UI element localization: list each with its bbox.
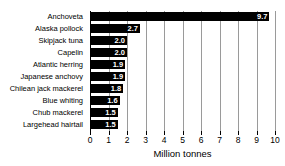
bar-row: 1.5 <box>90 119 275 131</box>
bar-value-label: 1.9 <box>90 60 125 69</box>
category-label: Japanese anchovy <box>0 71 86 83</box>
category-label: Skipjack tuna <box>0 35 86 47</box>
gridline-10 <box>275 11 276 131</box>
x-axis-tick-labels: 012345678910 <box>90 135 275 147</box>
bar-row: 2.0 <box>90 35 275 47</box>
bar-value-label: 1.5 <box>90 120 118 129</box>
x-tick-label-9: 9 <box>249 135 265 146</box>
bar-value-label: 2.7 <box>90 24 140 33</box>
bar-value-label: 2.0 <box>90 48 127 57</box>
category-label: Chub mackerel <box>0 107 86 119</box>
bar-row: 2.0 <box>90 47 275 59</box>
bar-value-label: 1.8 <box>90 84 123 93</box>
category-axis-labels: AnchovetaAlaska pollockSkipjack tunaCape… <box>0 11 86 131</box>
x-axis-title: Million tonnes <box>90 148 275 159</box>
bar-value-label: 2.0 <box>90 36 127 45</box>
bar-row: 1.9 <box>90 71 275 83</box>
bar-row: 9.7 <box>90 11 275 23</box>
bar-row: 1.5 <box>90 107 275 119</box>
x-tick-label-4: 4 <box>156 135 172 146</box>
x-tick-label-0: 0 <box>82 135 98 146</box>
x-tick-label-10: 10 <box>267 135 283 146</box>
category-label: Blue whiting <box>0 95 86 107</box>
bars-container: 9.72.72.02.01.91.91.81.61.51.5 <box>90 11 275 131</box>
x-tick-label-1: 1 <box>101 135 117 146</box>
x-tick-label-7: 7 <box>212 135 228 146</box>
x-tick-label-8: 8 <box>230 135 246 146</box>
bar-value-label: 1.6 <box>90 96 120 105</box>
plot-area: 9.72.72.02.01.91.91.81.61.51.5 <box>90 11 275 131</box>
bar-row: 1.6 <box>90 95 275 107</box>
category-label: Capelin <box>0 47 86 59</box>
x-tick-label-6: 6 <box>193 135 209 146</box>
bar-value-label: 1.9 <box>90 72 125 81</box>
x-tick-label-3: 3 <box>138 135 154 146</box>
x-axis-line <box>90 131 275 132</box>
category-label: Alaska pollock <box>0 23 86 35</box>
category-label: Atlantic herring <box>0 59 86 71</box>
category-label: Largehead hairtail <box>0 119 86 131</box>
bar-value-label: 1.5 <box>90 108 118 117</box>
x-tick-label-5: 5 <box>175 135 191 146</box>
category-label: Chilean jack mackerel <box>0 83 86 95</box>
bar-row: 1.9 <box>90 59 275 71</box>
bar-row: 2.7 <box>90 23 275 35</box>
category-label: Anchoveta <box>0 11 86 23</box>
x-tick-label-2: 2 <box>119 135 135 146</box>
bar-value-label: 9.7 <box>90 12 269 21</box>
bar-row: 1.8 <box>90 83 275 95</box>
bar-chart-figure: AnchovetaAlaska pollockSkipjack tunaCape… <box>0 0 285 166</box>
